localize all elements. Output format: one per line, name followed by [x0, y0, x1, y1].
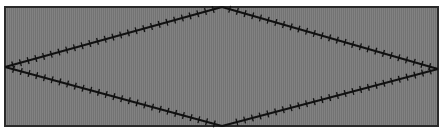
track-tick — [73, 44, 75, 51]
track-tick — [406, 57, 408, 64]
track-tick — [367, 84, 369, 91]
track-tick — [112, 34, 114, 41]
track-tick — [236, 8, 238, 15]
track-tick — [59, 79, 61, 86]
track-tick — [306, 28, 308, 35]
track-tick — [398, 54, 400, 61]
track-tick — [244, 117, 246, 124]
track-tick — [259, 113, 261, 120]
top-left-edge — [5, 6, 222, 68]
track-tick — [181, 15, 183, 22]
diagram-canvas — [0, 0, 443, 131]
track-tick — [97, 38, 99, 45]
bottom-left-edge — [5, 66, 222, 127]
track-tick — [67, 81, 69, 88]
track-tick — [313, 30, 315, 37]
track-tick — [144, 102, 146, 109]
track-tick — [50, 51, 52, 58]
track-tick — [329, 94, 331, 101]
track-tick — [166, 19, 168, 26]
track-tick — [151, 23, 153, 30]
track-tick — [90, 87, 92, 94]
track-tick — [383, 50, 385, 57]
track-tick — [174, 17, 176, 24]
track-tick — [190, 114, 192, 121]
track-tick — [189, 12, 191, 19]
track-tick — [398, 76, 400, 83]
track-tick — [113, 93, 115, 100]
track-tick — [413, 59, 415, 66]
track-tick — [290, 24, 292, 31]
track-tick — [375, 82, 377, 89]
track-tick — [414, 72, 416, 79]
track-tick — [212, 6, 214, 13]
track-tick — [290, 104, 292, 111]
track-tick — [20, 68, 22, 75]
track-tick — [74, 83, 76, 90]
track-tick — [120, 32, 122, 39]
track-tick — [282, 106, 284, 113]
track-tick — [252, 12, 254, 19]
track-tick — [105, 91, 107, 98]
track-tick — [213, 121, 215, 128]
track-tick — [390, 52, 392, 59]
track-tick — [175, 110, 177, 117]
track-tick — [321, 96, 323, 103]
track-tick — [44, 74, 46, 81]
track-tick — [267, 111, 269, 118]
track-tick — [36, 72, 38, 79]
track-tick — [375, 48, 377, 55]
track-tick — [352, 41, 354, 48]
track-tick — [66, 47, 68, 54]
track-tick — [128, 97, 130, 104]
track-tick — [127, 30, 129, 37]
track-tick — [244, 10, 246, 17]
track-tick — [275, 19, 277, 26]
track-tick — [298, 102, 300, 109]
track-tick — [98, 89, 100, 96]
track-tick — [89, 40, 91, 47]
track-tick — [167, 108, 169, 115]
track-tick — [51, 76, 53, 83]
bottom-right-edge — [222, 68, 438, 126]
track-tick — [275, 108, 277, 115]
track-tick — [82, 85, 84, 92]
track-tick — [337, 92, 339, 99]
track-tick — [306, 100, 308, 107]
track-tick — [28, 70, 30, 77]
track-tick — [329, 35, 331, 42]
track-tick — [283, 21, 285, 28]
track-tick — [158, 21, 160, 28]
diamond-track-overlay — [0, 0, 443, 131]
track-tick — [198, 116, 200, 123]
track-tick — [352, 88, 354, 95]
track-tick — [344, 90, 346, 97]
track-tick — [35, 55, 37, 62]
track-tick — [259, 15, 261, 22]
track-tick — [206, 118, 208, 125]
track-tick — [422, 70, 424, 77]
track-tick — [12, 61, 14, 68]
track-tick — [159, 106, 161, 113]
track-tick — [143, 25, 145, 32]
track-tick — [58, 49, 60, 56]
track-tick — [321, 32, 323, 39]
track-tick — [104, 36, 106, 43]
track-tick — [251, 115, 253, 122]
track-tick — [43, 53, 45, 60]
track-tick — [121, 95, 123, 102]
track-tick — [205, 8, 207, 15]
track-tick — [136, 100, 138, 107]
track-tick — [313, 98, 315, 105]
track-tick — [367, 46, 369, 53]
track-tick — [152, 104, 154, 111]
track-tick — [406, 74, 408, 81]
track-tick — [429, 68, 431, 75]
track-tick — [391, 78, 393, 85]
track-tick — [19, 59, 21, 66]
track-tick — [421, 61, 423, 68]
track-tick — [298, 26, 300, 33]
track-tick — [135, 27, 137, 34]
track-tick — [383, 80, 385, 87]
track-tick — [236, 119, 238, 126]
